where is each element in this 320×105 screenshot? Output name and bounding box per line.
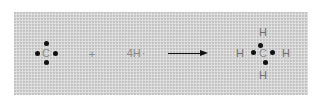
carbon-symbol: C: [42, 48, 50, 59]
reaction-arrow: [168, 53, 201, 55]
hydrogen-top: H: [259, 27, 267, 38]
electron-dot-left: [35, 51, 40, 56]
shared-pair-left: [251, 50, 256, 55]
hydrogen-left: H: [236, 48, 244, 59]
electron-dot-top: [44, 41, 49, 46]
arrow-head-icon: [200, 50, 208, 56]
shared-pair-bottom: [263, 60, 268, 65]
hydrogen-label: 4H: [127, 48, 141, 59]
plus-sign: +: [89, 49, 95, 60]
electron-dot-bottom: [44, 60, 49, 65]
hydrogen-right: H: [282, 48, 290, 59]
hydrogen-reactant: 4H·: [127, 48, 146, 59]
product-carbon: C: [259, 48, 267, 59]
shared-pair-top: [258, 43, 263, 48]
shared-pair-right: [270, 50, 275, 55]
hydrogen-radical-dot: ·: [142, 48, 146, 59]
electron-dot-right: [53, 51, 58, 56]
hydrogen-bottom: H: [259, 70, 267, 81]
